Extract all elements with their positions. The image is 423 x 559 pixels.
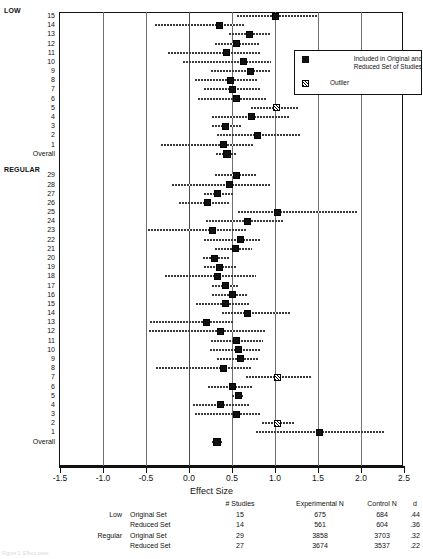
table-group-label: Low xyxy=(60,511,122,518)
table-cell-d: .44 xyxy=(370,511,423,518)
study-marker xyxy=(248,113,255,120)
study-marker xyxy=(233,40,240,47)
row-label: 20 xyxy=(0,254,55,262)
row-label: 7 xyxy=(0,373,55,381)
legend-label: Included in Original and Reduced Set of … xyxy=(330,55,422,71)
x-axis-tick-label: 0.5 xyxy=(212,473,252,483)
confidence-interval xyxy=(168,52,261,54)
row-label: 8 xyxy=(0,76,55,84)
row-label: 10 xyxy=(0,346,55,354)
table-cell-studies: 29 xyxy=(195,532,285,539)
row-label: 7 xyxy=(0,85,55,93)
x-axis-tick-label: -1.0 xyxy=(83,473,123,483)
study-marker xyxy=(233,337,240,344)
table-cell-d: .32 xyxy=(370,532,423,539)
confidence-interval xyxy=(211,70,271,72)
study-marker xyxy=(220,141,227,148)
x-axis-tick-label: 1.0 xyxy=(255,473,295,483)
row-label: 12 xyxy=(0,40,55,48)
row-label: 25 xyxy=(0,208,55,216)
row-label: 29 xyxy=(0,171,55,179)
table-column-header: # Studies xyxy=(195,500,285,507)
row-label: 6 xyxy=(0,95,55,103)
legend-solid-swatch xyxy=(302,56,309,63)
study-marker xyxy=(229,383,236,390)
study-marker xyxy=(244,218,251,225)
x-axis-tick-label: 2.5 xyxy=(384,473,423,483)
x-axis-tick-label: -0.5 xyxy=(126,473,166,483)
table-group-label: Regular xyxy=(60,532,122,539)
row-label: 18 xyxy=(0,272,55,280)
study-marker xyxy=(247,68,254,75)
study-marker xyxy=(217,401,224,408)
study-marker xyxy=(254,132,261,139)
study-marker xyxy=(274,209,281,216)
row-label: 15 xyxy=(0,300,55,308)
x-axis-tick-label: -1.5 xyxy=(40,473,80,483)
study-marker xyxy=(246,31,253,38)
table-cell-studies: 14 xyxy=(195,521,285,528)
overall-marker xyxy=(223,150,231,158)
row-label: 16 xyxy=(0,291,55,299)
confidence-interval xyxy=(165,275,256,277)
row-label: 5 xyxy=(0,104,55,112)
row-label: 10 xyxy=(0,58,55,66)
table-set-label: Original Set xyxy=(130,511,167,518)
row-label: 4 xyxy=(0,401,55,409)
study-marker xyxy=(229,86,236,93)
row-label: 14 xyxy=(0,309,55,317)
table-cell-studies: 27 xyxy=(195,542,285,549)
study-marker xyxy=(232,245,239,252)
study-marker xyxy=(233,411,240,418)
table-cell-d: .36 xyxy=(370,521,423,528)
study-marker xyxy=(244,310,251,317)
row-label: 11 xyxy=(0,337,55,345)
row-label: 2 xyxy=(0,419,55,427)
study-marker xyxy=(240,58,247,65)
confidence-interval xyxy=(155,24,244,26)
row-label: 23 xyxy=(0,226,55,234)
table-set-label: Reduced Set xyxy=(130,542,170,549)
study-marker xyxy=(316,429,323,436)
confidence-interval xyxy=(183,61,271,63)
gridline-1 xyxy=(275,12,276,466)
row-label: 13 xyxy=(0,318,55,326)
gridline-0 xyxy=(189,12,190,466)
study-marker xyxy=(222,282,229,289)
row-label: 15 xyxy=(0,12,55,20)
confidence-interval xyxy=(150,321,233,323)
study-marker xyxy=(216,22,223,29)
study-marker xyxy=(211,255,218,262)
forest-plot: LOW151413121110987654321OverallREGULAR29… xyxy=(0,0,423,559)
table-column-header: d xyxy=(370,500,423,507)
row-label: 4 xyxy=(0,113,55,121)
row-label: 13 xyxy=(0,30,55,38)
gridline--1 xyxy=(103,12,104,466)
study-marker xyxy=(223,49,230,56)
study-marker xyxy=(226,181,233,188)
legend-hatch-swatch xyxy=(302,80,309,87)
study-marker xyxy=(233,95,240,102)
study-marker xyxy=(222,123,229,130)
study-marker xyxy=(217,328,224,335)
table-cell-studies: 15 xyxy=(195,511,285,518)
x-axis-title: Effect Size xyxy=(0,486,423,496)
row-label: 5 xyxy=(0,392,55,400)
study-marker xyxy=(204,199,211,206)
confidence-interval xyxy=(149,330,265,332)
row-label: 17 xyxy=(0,282,55,290)
row-label: 9 xyxy=(0,67,55,75)
study-marker xyxy=(220,365,227,372)
row-label: 3 xyxy=(0,410,55,418)
confidence-interval xyxy=(172,184,271,186)
x-axis-tick-label: 2.0 xyxy=(341,473,381,483)
figure-caption: Figure 1. Effect sizes xyxy=(2,550,49,556)
study-marker xyxy=(235,346,242,353)
table-cell-d: .22 xyxy=(370,542,423,549)
outlier-marker xyxy=(274,420,281,427)
row-label: 12 xyxy=(0,327,55,335)
study-marker xyxy=(214,273,221,280)
row-label: 3 xyxy=(0,122,55,130)
gridline--0p5 xyxy=(146,12,147,466)
row-label: 9 xyxy=(0,355,55,363)
